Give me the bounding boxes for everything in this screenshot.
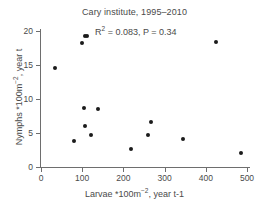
y-axis-title: Nymphs *100m−2, year t — [14, 22, 24, 172]
x-tick-mark — [82, 168, 83, 172]
x-tick-label: 500 — [232, 174, 262, 183]
x-tick-label: 0 — [26, 174, 56, 183]
y-tick-mark — [36, 167, 40, 168]
x-tick-mark — [123, 168, 124, 172]
y-tick-mark — [36, 133, 40, 134]
data-point — [82, 106, 86, 110]
chart-title: Cary institute, 1995–2010 — [0, 7, 269, 17]
x-tick-mark — [165, 168, 166, 172]
scatter-plot-figure: Cary institute, 1995–2010 R2 = 0.083, P … — [0, 0, 269, 211]
x-tick-mark — [41, 168, 42, 172]
x-tick-mark — [247, 168, 248, 172]
x-tick-mark — [206, 168, 207, 172]
x-axis-title-pre: Larvae *100m — [85, 189, 141, 199]
y-tick-mark — [36, 31, 40, 32]
x-tick-label: 300 — [150, 174, 180, 183]
x-axis-title: Larvae *100m−2, year t-1 — [0, 189, 269, 199]
x-tick-label: 200 — [108, 174, 138, 183]
x-tick-label: 100 — [67, 174, 97, 183]
data-point — [149, 120, 153, 124]
data-point — [214, 40, 218, 44]
y-axis-title-exponent: −2 — [12, 76, 19, 83]
plot-area — [41, 31, 249, 167]
y-tick-mark — [36, 65, 40, 66]
x-axis-line — [40, 167, 250, 168]
data-point — [146, 133, 150, 137]
y-axis-title-post: , year t — [14, 49, 24, 77]
data-point — [72, 139, 76, 143]
x-axis-title-post: , year t-1 — [148, 189, 184, 199]
y-axis-title-pre: Nymphs *100m — [14, 84, 24, 146]
y-tick-mark — [36, 99, 40, 100]
x-tick-label: 400 — [191, 174, 221, 183]
